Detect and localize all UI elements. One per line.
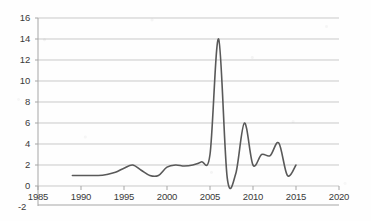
y-axis-label-4: 4: [6, 139, 30, 149]
x-axis-ticks: [38, 186, 339, 190]
y-axis-label-8: 8: [6, 97, 30, 107]
y-axis-label-14: 14: [6, 34, 30, 44]
x-axis-label-1990: 1990: [64, 192, 98, 202]
data-line-1: [72, 39, 296, 189]
x-axis-label-1985: 1985: [21, 192, 55, 202]
y-axis-label-12: 12: [6, 55, 30, 65]
gridlines: [38, 18, 339, 186]
y-axis-label--2: -2: [4, 202, 26, 212]
y-axis-label-10: 10: [6, 76, 30, 86]
x-axis-label-2015: 2015: [279, 192, 313, 202]
x-axis-label-2005: 2005: [193, 192, 227, 202]
x-axis-label-2020: 2020: [322, 192, 356, 202]
y-axis-label-6: 6: [6, 118, 30, 128]
y-axis-label-0: 0: [6, 181, 30, 191]
x-axis-label-1995: 1995: [107, 192, 141, 202]
x-axis-label-2000: 2000: [150, 192, 184, 202]
line-chart: 1614121086420-2 198519901995200020052010…: [0, 0, 371, 221]
y-axis-label-2: 2: [6, 160, 30, 170]
chart-canvas: [0, 0, 371, 221]
y-axis-label-16: 16: [6, 13, 30, 23]
x-axis-label-2010: 2010: [236, 192, 270, 202]
